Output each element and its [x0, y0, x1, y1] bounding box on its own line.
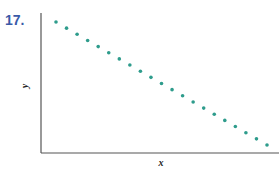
data-point [86, 39, 90, 43]
data-point [139, 69, 143, 73]
data-point [170, 88, 174, 92]
data-point [255, 137, 259, 141]
data-point [202, 106, 206, 110]
data-point [65, 26, 69, 30]
data-point [265, 143, 269, 147]
data-point [107, 51, 111, 55]
data-points [54, 20, 269, 147]
data-point [181, 94, 185, 98]
scatter-plot: y x [0, 0, 279, 170]
data-point [212, 112, 216, 116]
data-point [234, 125, 238, 129]
data-point [54, 20, 58, 24]
data-point [128, 63, 132, 67]
data-point [149, 76, 153, 80]
data-point [75, 33, 79, 37]
data-point [223, 119, 227, 123]
data-point [191, 100, 195, 104]
data-point [96, 45, 100, 49]
x-axis-label: x [158, 157, 164, 168]
data-point [160, 82, 164, 86]
y-axis-label: y [19, 83, 30, 89]
data-point [244, 131, 248, 135]
data-point [118, 57, 122, 61]
